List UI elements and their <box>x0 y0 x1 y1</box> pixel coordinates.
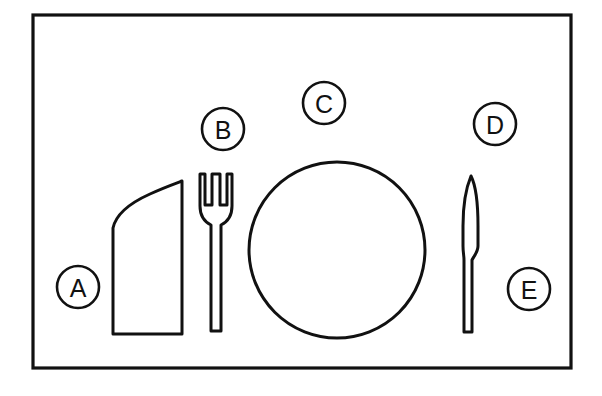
diagram-canvas: A B C D E <box>0 0 602 396</box>
place-setting-diagram: A B C D E <box>0 0 602 396</box>
callout-a-label: A <box>70 274 87 302</box>
callout-d-label: D <box>486 111 504 139</box>
plate-icon <box>249 162 425 338</box>
callout-c[interactable]: C <box>303 82 345 124</box>
callout-b[interactable]: B <box>202 108 244 150</box>
callout-e-label: E <box>521 276 538 304</box>
callout-d[interactable]: D <box>474 103 516 145</box>
callout-e[interactable]: E <box>508 268 550 310</box>
callout-c-label: C <box>315 90 333 118</box>
callout-b-label: B <box>215 116 232 144</box>
callout-a[interactable]: A <box>57 266 99 308</box>
